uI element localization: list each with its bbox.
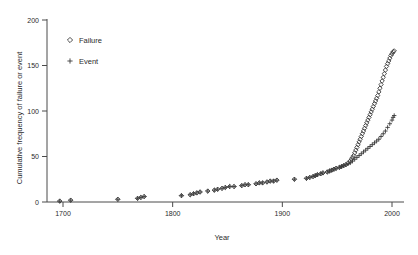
- data-point: [321, 171, 325, 175]
- data-point: [325, 170, 329, 174]
- data-point: [385, 125, 389, 129]
- data-point: [339, 164, 343, 168]
- legend-label-failure: Failure: [79, 36, 102, 45]
- data-point: [232, 184, 236, 188]
- data-point: [344, 162, 348, 166]
- axes-group: [47, 19, 404, 202]
- y-tick-label: 200: [27, 17, 39, 24]
- scatter-plot: 0501001502001700180019002000 FailureEven…: [0, 0, 418, 255]
- data-point: [379, 134, 383, 138]
- data-point: [381, 132, 385, 136]
- data-point: [116, 197, 120, 201]
- data-point: [388, 122, 392, 126]
- data-series-group: [58, 49, 397, 204]
- x-tick-label: 1800: [165, 210, 181, 217]
- data-point: [327, 169, 331, 173]
- data-point: [58, 199, 62, 203]
- data-point: [206, 189, 210, 193]
- data-point: [332, 167, 336, 171]
- data-point: [383, 129, 387, 133]
- x-tick-label: 1700: [55, 210, 71, 217]
- data-point: [246, 183, 250, 187]
- axis-tick-labels: 0501001502001700180019002000: [27, 17, 400, 218]
- legend-marker-failure: [67, 37, 72, 42]
- y-tick-label: 0: [35, 199, 39, 206]
- y-tick-label: 50: [31, 153, 39, 160]
- series-event: [58, 113, 397, 203]
- data-point: [292, 177, 296, 181]
- data-point: [179, 193, 183, 197]
- x-tick-label: 1900: [275, 210, 291, 217]
- x-axis-title: Year: [214, 233, 230, 242]
- data-point: [313, 173, 317, 177]
- chart-legend: FailureEvent: [67, 36, 102, 66]
- legend-marker-event: [67, 58, 72, 63]
- legend-label-event: Event: [79, 57, 99, 66]
- data-point: [260, 181, 264, 185]
- data-point: [329, 168, 333, 172]
- axis-ticks: [42, 20, 392, 207]
- y-tick-label: 150: [27, 62, 39, 69]
- chart-page: 0501001502001700180019002000 FailureEven…: [0, 0, 418, 255]
- series-failure: [58, 49, 397, 204]
- x-tick-label: 2000: [384, 210, 400, 217]
- y-tick-label: 100: [27, 108, 39, 115]
- y-axis-title: Cumulative frequency of failure or event: [15, 51, 24, 184]
- data-point: [342, 163, 346, 167]
- data-point: [227, 184, 231, 188]
